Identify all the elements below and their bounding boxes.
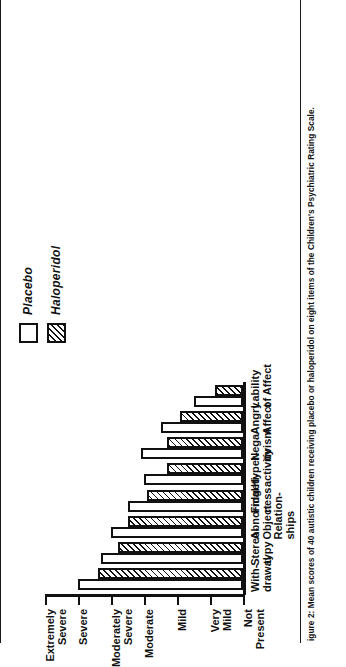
legend-label-placebo: Placebo (21, 267, 35, 315)
open-square-swatch-icon (19, 323, 38, 343)
category-label-7: Lability of Affect (250, 382, 273, 408)
category-label-6: Angry Affect (250, 408, 273, 434)
bar-placebo-6 (161, 422, 244, 433)
bar-placebo-3 (128, 501, 244, 512)
bar-haloperidol-3 (147, 490, 243, 501)
bar-haloperidol-1 (118, 542, 243, 553)
bar-placebo-4 (144, 474, 243, 485)
category-label-1: Stereo- typy (250, 540, 273, 566)
bar-haloperidol-6 (180, 411, 243, 422)
bar-haloperidol-4 (167, 463, 243, 474)
category-label-0: With- drawal (250, 566, 273, 592)
category-label-2: Abnormal Object Relation- ships (250, 513, 296, 539)
bar-placebo-5 (141, 448, 243, 459)
bar-placebo-2 (111, 527, 243, 538)
bar-haloperidol-0 (98, 568, 243, 579)
bar-chart-plot: Not PresentVery MildMildModerateModerate… (0, 0, 300, 643)
legend-label-haloperidol: Haloperidol (49, 246, 63, 315)
bar-placebo-0 (78, 579, 243, 590)
bar-placebo-1 (101, 553, 243, 564)
bar-placebo-7 (194, 396, 244, 407)
bar-haloperidol-7 (215, 385, 243, 396)
hatched-square-swatch-icon (47, 323, 66, 343)
category-label-3: Fidgeti- ness (250, 487, 273, 513)
plate-rule-bottom (300, 0, 301, 643)
category-label-5: Nega- tivism (250, 435, 273, 461)
category-label-4: Hyper- activity (250, 461, 273, 487)
figure-caption: igure 2: Mean scores of 40 autistic chil… (306, 1, 316, 641)
bar-haloperidol-5 (167, 437, 243, 448)
bar-haloperidol-2 (128, 516, 244, 527)
